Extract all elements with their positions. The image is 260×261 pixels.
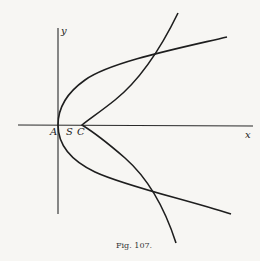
y-axis-label: y [61,26,67,36]
x-axis-label: x [245,130,251,140]
point-s-label: S [66,127,73,137]
diagram-canvas [0,0,260,261]
figure-107: y x A S C Fig. 107. [0,0,260,261]
point-a-label: A [50,127,57,137]
point-c-label: C [77,127,85,137]
figure-caption: Fig. 107. [116,242,152,250]
parabola-2-curve [82,13,178,243]
